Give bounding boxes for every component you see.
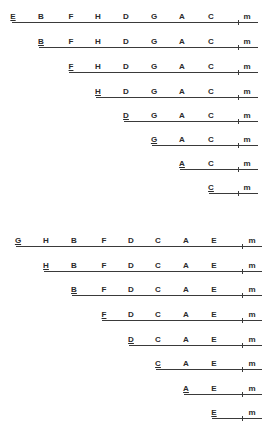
node-label-m: m (243, 184, 250, 192)
node-label-D: D (128, 262, 134, 270)
node-label-A: A (179, 112, 185, 120)
node-label-A: A (179, 136, 185, 144)
node-label-C: C (155, 336, 161, 344)
segment-line (44, 271, 262, 272)
segment-line (39, 47, 258, 48)
node-label-B: B (38, 38, 44, 46)
node-label-B: B (71, 286, 77, 294)
node-label-E: E (211, 360, 216, 368)
node-label-G: G (151, 112, 157, 120)
node-label-D: D (123, 88, 129, 96)
node-label-E: E (211, 409, 216, 417)
node-label-E: E (10, 13, 15, 21)
node-label-m: m (248, 262, 255, 270)
segment-tick (242, 392, 243, 397)
node-label-D: D (128, 286, 134, 294)
node-label-A: A (183, 385, 189, 393)
node-label-m: m (248, 336, 255, 344)
node-label-F: F (102, 262, 107, 270)
node-label-m: m (243, 160, 250, 168)
segment-tick (242, 343, 243, 348)
node-label-m: m (248, 311, 255, 319)
node-label-A: A (183, 262, 189, 270)
segment-diagram: EBFHDGACmBFHDGACmFHDGACmHDGACmDGACmGACmA… (0, 0, 278, 435)
node-label-A: A (179, 88, 185, 96)
node-label-E: E (211, 286, 216, 294)
node-label-H: H (43, 237, 49, 245)
segment-tick (242, 269, 243, 274)
node-label-D: D (123, 112, 129, 120)
node-label-A: A (183, 336, 189, 344)
segment-tick (242, 416, 243, 421)
node-label-C: C (208, 136, 214, 144)
node-label-E: E (211, 311, 216, 319)
segment-tick (238, 45, 239, 50)
node-label-C: C (155, 262, 161, 270)
node-label-C: C (208, 63, 214, 71)
node-label-A: A (179, 13, 185, 21)
node-label-m: m (248, 409, 255, 417)
node-label-G: G (151, 136, 157, 144)
node-label-C: C (155, 311, 161, 319)
node-label-C: C (208, 160, 214, 168)
segment-tick (242, 244, 243, 249)
node-label-m: m (243, 88, 250, 96)
node-label-D: D (128, 336, 134, 344)
segment-tick (242, 367, 243, 372)
node-label-A: A (179, 63, 185, 71)
segment-line (152, 145, 258, 146)
segment-line (69, 72, 258, 73)
node-label-F: F (102, 237, 107, 245)
node-label-C: C (208, 88, 214, 96)
node-label-F: F (69, 63, 74, 71)
segment-tick (242, 293, 243, 298)
segment-line (209, 193, 258, 194)
node-label-C: C (155, 286, 161, 294)
node-label-E: E (211, 385, 216, 393)
segment-line (16, 246, 262, 247)
segment-line (156, 369, 262, 370)
node-label-F: F (69, 38, 74, 46)
segment-tick (238, 143, 239, 148)
segment-line (180, 169, 258, 170)
segment-line (102, 320, 262, 321)
node-label-E: E (211, 237, 216, 245)
node-label-A: A (183, 286, 189, 294)
node-label-m: m (243, 38, 250, 46)
segment-tick (238, 20, 239, 25)
node-label-H: H (95, 88, 101, 96)
node-label-C: C (208, 38, 214, 46)
node-label-m: m (243, 13, 250, 21)
node-label-C: C (208, 13, 214, 21)
node-label-A: A (179, 38, 185, 46)
node-label-B: B (71, 262, 77, 270)
segment-tick (238, 191, 239, 196)
node-label-A: A (183, 237, 189, 245)
node-label-C: C (155, 237, 161, 245)
node-label-D: D (123, 63, 129, 71)
node-label-F: F (102, 311, 107, 319)
segment-line (96, 97, 258, 98)
node-label-H: H (43, 262, 49, 270)
node-label-G: G (15, 237, 21, 245)
node-label-F: F (69, 13, 74, 21)
node-label-G: G (151, 38, 157, 46)
node-label-D: D (128, 237, 134, 245)
node-label-m: m (243, 63, 250, 71)
node-label-B: B (38, 13, 44, 21)
segment-tick (238, 119, 239, 124)
node-label-C: C (155, 360, 161, 368)
node-label-m: m (248, 237, 255, 245)
node-label-m: m (243, 136, 250, 144)
segment-tick (242, 318, 243, 323)
segment-line (12, 22, 258, 23)
node-label-m: m (248, 286, 255, 294)
node-label-H: H (95, 38, 101, 46)
segment-line (184, 394, 262, 395)
node-label-m: m (243, 112, 250, 120)
node-label-C: C (208, 112, 214, 120)
node-label-A: A (179, 160, 185, 168)
node-label-D: D (128, 311, 134, 319)
node-label-D: D (123, 13, 129, 21)
node-label-G: G (151, 13, 157, 21)
